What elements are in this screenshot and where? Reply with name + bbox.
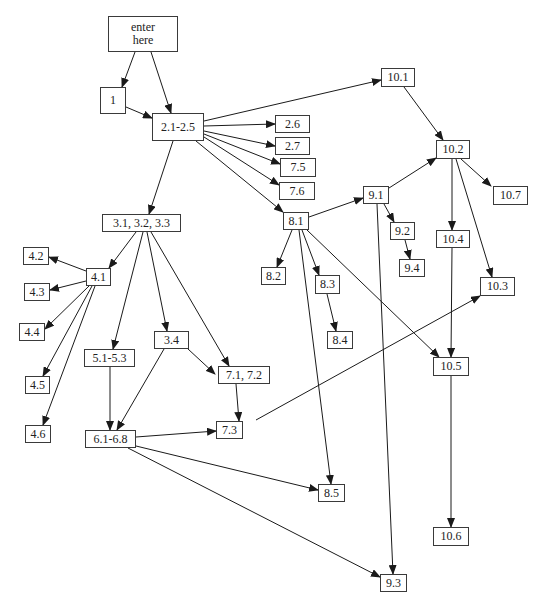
edge-n3_1_3_3-to-n5_1_5_3 xyxy=(113,232,143,349)
node-n2_6[interactable]: 2.6 xyxy=(275,115,310,133)
edge-n10_4-to-n10_5 xyxy=(451,248,452,357)
flow-diagram xyxy=(0,0,542,611)
node-n5_1_5_3[interactable]: 5.1-5.3 xyxy=(84,349,135,367)
node-label: 8.4 xyxy=(333,334,348,347)
node-n9_2[interactable]: 9.2 xyxy=(390,222,415,240)
node-n9_1[interactable]: 9.1 xyxy=(363,186,389,204)
node-n2_1_2_5[interactable]: 2.1-2.5 xyxy=(152,113,204,141)
node-n4_3[interactable]: 4.3 xyxy=(24,283,50,301)
edge-layer xyxy=(43,52,492,577)
edge-n10_1-to-n10_2 xyxy=(404,87,443,140)
node-label: 10.6 xyxy=(441,530,462,543)
edge-n9_2-to-n9_4 xyxy=(405,240,410,259)
node-n7_6[interactable]: 7.6 xyxy=(279,182,315,200)
node-label: 9.1 xyxy=(369,189,384,202)
edge-n10_2-to-n10_7 xyxy=(461,159,491,186)
edge-n9_1-to-n10_2 xyxy=(389,158,436,188)
node-label: enter here xyxy=(131,21,155,47)
node-n4_6[interactable]: 4.6 xyxy=(25,425,51,443)
node-n9_4[interactable]: 9.4 xyxy=(399,259,425,277)
node-label: 1 xyxy=(110,94,116,107)
node-n3_4[interactable]: 3.4 xyxy=(154,331,189,349)
node-n4_1[interactable]: 4.1 xyxy=(86,268,111,286)
node-label: 5.1-5.3 xyxy=(93,352,127,365)
node-n9_3[interactable]: 9.3 xyxy=(380,574,407,592)
edge-n4_1-to-n4_4 xyxy=(45,286,89,329)
node-n8_1[interactable]: 8.1 xyxy=(283,212,309,230)
edge-n4_1-to-n4_3 xyxy=(50,281,86,290)
edge-n8_3-to-n8_4 xyxy=(327,294,336,331)
edge-n3_1_3_3-to-n4_1 xyxy=(109,232,136,268)
node-label: 10.2 xyxy=(443,143,464,156)
node-label: 7.3 xyxy=(222,424,237,437)
node-n4_2[interactable]: 4.2 xyxy=(23,247,49,265)
node-n10_6[interactable]: 10.6 xyxy=(433,527,469,546)
node-label: 4.2 xyxy=(29,250,44,263)
node-n6_1_6_8[interactable]: 6.1-6.8 xyxy=(85,430,136,448)
node-n10_4[interactable]: 10.4 xyxy=(436,230,470,248)
node-label: 4.5 xyxy=(30,379,45,392)
node-label: 10.1 xyxy=(388,71,409,84)
node-label: 9.4 xyxy=(405,262,420,275)
node-label: 2.6 xyxy=(285,118,300,131)
edge-n8_1-to-n9_1 xyxy=(309,198,363,217)
edge-n2_1_2_5-to-n7_5 xyxy=(204,134,280,164)
node-label: 2.7 xyxy=(285,140,300,153)
node-label: 8.2 xyxy=(266,270,281,283)
node-label: 10.5 xyxy=(441,360,462,373)
node-n4_4[interactable]: 4.4 xyxy=(19,323,45,341)
node-n8_4[interactable]: 8.4 xyxy=(327,331,353,349)
node-n3_1_3_3[interactable]: 3.1, 3.2, 3.3 xyxy=(102,214,181,232)
node-label: 8.5 xyxy=(324,487,339,500)
edge-n3_4-to-n7_1_7_2 xyxy=(188,349,215,374)
node-n10_1[interactable]: 10.1 xyxy=(381,68,415,87)
node-label: 8.3 xyxy=(320,278,335,291)
edge-n3_1_3_3-to-n3_4 xyxy=(147,232,167,331)
edge-n1-to-n2_1_2_5 xyxy=(126,107,152,118)
node-label: 4.1 xyxy=(91,271,106,284)
node-label: 3.1, 3.2, 3.3 xyxy=(113,217,170,230)
node-n7_1_7_2[interactable]: 7.1, 7.2 xyxy=(218,366,270,384)
node-label: 7.1, 7.2 xyxy=(226,369,262,382)
node-label: 9.3 xyxy=(386,577,401,590)
node-enter[interactable]: enter here xyxy=(108,16,178,52)
edge-n8_1-to-n8_3 xyxy=(302,230,319,275)
node-n10_5[interactable]: 10.5 xyxy=(433,357,469,376)
node-n10_7[interactable]: 10.7 xyxy=(493,186,528,205)
node-n10_2[interactable]: 10.2 xyxy=(436,140,470,159)
node-label: 7.6 xyxy=(290,185,305,198)
node-label: 10.3 xyxy=(487,280,508,293)
node-n2_7[interactable]: 2.7 xyxy=(275,137,310,155)
node-n8_2[interactable]: 8.2 xyxy=(261,267,286,285)
node-label: 7.5 xyxy=(291,161,306,174)
node-n7_5[interactable]: 7.5 xyxy=(280,158,316,177)
node-n1[interactable]: 1 xyxy=(100,87,126,114)
edge-n8_1-to-n8_5 xyxy=(299,230,331,484)
node-label: 3.4 xyxy=(164,334,179,347)
node-n10_3[interactable]: 10.3 xyxy=(480,277,515,296)
edge-enter-to-n1 xyxy=(122,52,135,87)
edge-n2_1_2_5-to-n2_6 xyxy=(204,124,275,126)
node-label: 6.1-6.8 xyxy=(94,433,128,446)
edge-n8_1-to-n8_2 xyxy=(277,230,292,267)
edge-n7_1_7_2-to-n7_3 xyxy=(236,384,239,421)
edge-n9_1-to-n9_2 xyxy=(384,204,394,222)
node-label: 4.3 xyxy=(30,286,45,299)
node-label: 8.1 xyxy=(289,215,304,228)
node-label: 4.4 xyxy=(25,326,40,339)
node-n8_5[interactable]: 8.5 xyxy=(318,484,345,502)
node-label: 2.1-2.5 xyxy=(161,121,195,134)
node-n8_3[interactable]: 8.3 xyxy=(315,275,340,294)
edge-n10_2-to-n10_3 xyxy=(456,159,492,277)
node-n4_5[interactable]: 4.5 xyxy=(25,376,50,394)
node-label: 9.2 xyxy=(395,225,410,238)
node-n7_3[interactable]: 7.3 xyxy=(216,421,243,439)
node-label: 10.4 xyxy=(443,233,464,246)
edge-n6_1_6_8-to-n8_5 xyxy=(136,446,318,490)
edge-n2_1_2_5-to-n8_1 xyxy=(196,141,283,212)
edge-n2_1_2_5-to-n3_1_3_3 xyxy=(149,141,173,214)
edge-n4_1-to-n4_2 xyxy=(49,257,86,271)
edge-n6_1_6_8-to-n7_3 xyxy=(136,431,216,437)
node-label: 4.6 xyxy=(31,428,46,441)
edge-n9_1-to-n9_3 xyxy=(377,204,393,574)
